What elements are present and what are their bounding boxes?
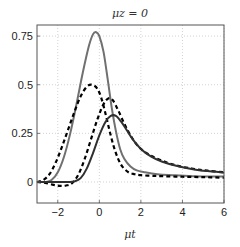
x-tick-label: −2 [52, 206, 65, 218]
x-tick-label: 4 [179, 206, 185, 218]
y-tick-label: 0.75 [12, 30, 33, 42]
y-tick-label: 0.5 [18, 79, 33, 91]
x-tick-label: 0 [96, 206, 102, 218]
y-tick-label: 0.25 [12, 127, 33, 139]
data-series [37, 32, 224, 186]
x-axis-label: μt [124, 228, 136, 241]
x-tick-label: 2 [138, 206, 144, 218]
y-axis-ticks: 00.250.50.75 [12, 30, 40, 188]
series-line-dark-solid [37, 115, 224, 182]
chart: μz = 0 00.250.50.75 −20246 μt [0, 0, 240, 247]
series-line-gray-solid [37, 32, 224, 182]
chart-title: μz = 0 [112, 7, 148, 20]
x-tick-label: 6 [221, 206, 227, 218]
y-tick-label: 0 [27, 176, 33, 188]
series-line-dashed-2 [37, 98, 224, 186]
